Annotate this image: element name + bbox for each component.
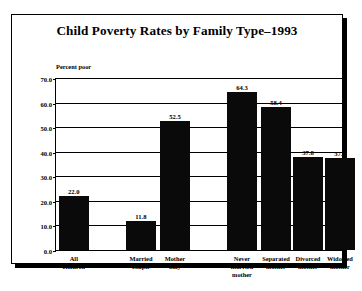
y-tick-mark bbox=[53, 79, 57, 80]
gridline: 50.0 bbox=[56, 127, 344, 128]
plot-area: 70.060.050.040.030.020.010.00.0 22.0All … bbox=[55, 78, 344, 251]
y-tick-mark bbox=[53, 153, 57, 154]
gridline: 60.0 bbox=[56, 103, 344, 104]
y-tick-label: 60.0 bbox=[40, 100, 52, 107]
bar[interactable]: 64.3Never married mother bbox=[227, 92, 257, 250]
bar[interactable]: 37.8Divorced mother bbox=[293, 157, 323, 250]
chart-panel: Child Poverty Rates by Family Type–1993 … bbox=[11, 14, 343, 264]
y-tick-label: 30.0 bbox=[40, 174, 52, 181]
y-tick-label: 50.0 bbox=[40, 125, 52, 132]
bar-value-label: 37.8 bbox=[302, 149, 314, 156]
bar-value-label: 11.8 bbox=[135, 213, 146, 220]
bar-value-label: 64.3 bbox=[236, 84, 248, 91]
y-tick-label: 10.0 bbox=[40, 223, 52, 230]
bar-value-label: 58.4 bbox=[270, 99, 282, 106]
bar[interactable]: 58.4Separated mother bbox=[261, 107, 291, 250]
y-axis-label: Percent poor bbox=[56, 63, 91, 70]
bar[interactable]: 11.8Married couple bbox=[126, 221, 156, 250]
bar[interactable]: 22.0All children bbox=[59, 196, 89, 250]
bar[interactable]: 52.5Mother only bbox=[160, 121, 190, 250]
y-tick-label: 0.0 bbox=[44, 248, 52, 255]
bar[interactable]: 37.4Widowed mother bbox=[325, 158, 355, 250]
y-tick-mark bbox=[53, 251, 57, 252]
x-category-label: Divorced mother bbox=[296, 255, 321, 271]
bar-value-label: 22.0 bbox=[68, 188, 80, 195]
x-category-label: All children bbox=[63, 255, 86, 271]
y-tick-label: 40.0 bbox=[40, 149, 52, 156]
bar-value-label: 37.4 bbox=[334, 150, 346, 157]
bar-value-label: 52.5 bbox=[169, 113, 181, 120]
x-category-label: Separated mother bbox=[262, 255, 290, 271]
gridline: 0.0 bbox=[56, 250, 344, 251]
y-tick-label: 70.0 bbox=[40, 76, 52, 83]
y-tick-mark bbox=[53, 202, 57, 203]
x-category-label: Never married mother bbox=[231, 255, 253, 280]
y-tick-label: 20.0 bbox=[40, 198, 52, 205]
x-category-label: Widowed mother bbox=[327, 255, 353, 271]
gridline: 70.0 bbox=[56, 78, 344, 79]
gridline: 40.0 bbox=[56, 152, 344, 153]
x-category-label: Married couple bbox=[129, 255, 152, 271]
x-category-label: Mother only bbox=[165, 255, 186, 271]
y-tick-mark bbox=[53, 177, 57, 178]
y-tick-mark bbox=[53, 226, 57, 227]
chart-title: Child Poverty Rates by Family Type–1993 bbox=[12, 23, 342, 39]
y-tick-mark bbox=[53, 104, 57, 105]
y-tick-mark bbox=[53, 128, 57, 129]
